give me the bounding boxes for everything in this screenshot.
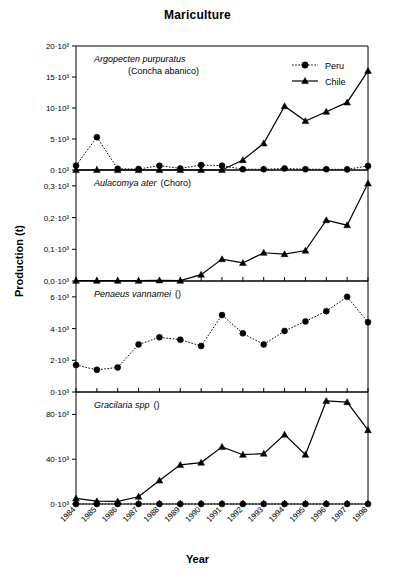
panel-argopecten: 0·10³5·10³10·10³15·10³20·10³Argopecten p…	[46, 42, 372, 175]
data-point-chile	[323, 217, 330, 223]
y-tick-label: 0·10³	[50, 388, 69, 397]
data-point-peru	[73, 362, 79, 368]
data-point-peru	[115, 364, 121, 370]
data-point-peru	[323, 501, 329, 507]
x-tick-label: 1985	[79, 505, 98, 524]
panel-aulacomya: 0,0·10³0,1·10³0,2·10³0,3·10³Aulacomya at…	[44, 170, 372, 286]
data-point-peru	[219, 312, 225, 318]
panel-caption: Gracilaria spp()	[94, 400, 160, 410]
data-point-peru	[156, 501, 162, 507]
y-tick-label: 10·10³	[46, 104, 69, 113]
x-tick-labels: 1984198519861987198819891990199119921993…	[58, 505, 369, 524]
panel-caption: Penaeus vannamei()	[94, 289, 181, 299]
data-point-peru	[261, 166, 267, 172]
panel-caption: Aulacomya ater(Choro)	[93, 178, 191, 188]
x-tick-label: 1993	[246, 505, 265, 524]
data-point-peru	[240, 166, 246, 172]
data-point-peru	[302, 318, 308, 324]
x-tick-label: 1990	[184, 505, 203, 524]
y-tick-label: 15·10³	[46, 73, 69, 82]
data-point-peru	[344, 294, 350, 300]
data-point-chile	[219, 443, 226, 449]
data-point-peru	[136, 501, 142, 507]
data-point-peru	[156, 334, 162, 340]
data-point-peru	[240, 501, 246, 507]
data-point-peru	[282, 501, 288, 507]
data-point-peru	[365, 319, 371, 325]
panel-penaeus: 0·10³2·10³4·10³6·10³Penaeus vannamei()	[50, 281, 371, 397]
x-tick-label: 1987	[121, 505, 140, 524]
y-tick-label: 0,0·10³	[44, 277, 70, 286]
legend-item-peru[interactable]: Peru	[292, 61, 344, 71]
x-tick-label: 1988	[142, 505, 161, 524]
panel-caption-line2: (Concha abanico)	[128, 66, 199, 76]
data-point-peru	[94, 134, 100, 140]
x-tick-label: 1992	[225, 505, 244, 524]
y-tick-label: 40·10³	[46, 455, 69, 464]
data-point-peru	[261, 501, 267, 507]
x-tick-label: 1996	[309, 505, 328, 524]
chart-root: Mariculture Production (t) Year 0·10³5·1…	[0, 0, 395, 588]
y-tick-label: 6·10³	[50, 293, 69, 302]
x-tick-label: 1986	[100, 505, 119, 524]
x-tick-label: 1995	[288, 505, 307, 524]
legend-item-chile[interactable]: Chile	[292, 77, 346, 87]
data-point-peru	[302, 166, 308, 172]
x-tick-label: 1997	[330, 505, 349, 524]
y-tick-label: 0,3·10³	[44, 182, 70, 191]
x-tick-label: 1991	[204, 505, 223, 524]
data-point-chile	[323, 108, 330, 114]
panel-caption: Argopecten purpuratus	[93, 54, 186, 64]
y-tick-label: 0,1·10³	[44, 245, 70, 254]
data-point-peru	[73, 501, 79, 507]
y-tick-label: 5·10³	[50, 135, 69, 144]
y-tick-label: 2·10³	[50, 356, 69, 365]
data-point-peru	[177, 501, 183, 507]
data-point-peru	[344, 166, 350, 172]
data-point-peru	[323, 308, 329, 314]
data-point-peru	[261, 341, 267, 347]
data-point-peru	[365, 163, 371, 169]
x-tick-label: 1998	[350, 505, 369, 524]
data-point-chile	[219, 256, 226, 262]
data-point-peru	[198, 343, 204, 349]
data-point-chile	[281, 103, 288, 109]
data-point-chile	[260, 140, 267, 146]
data-point-peru	[240, 330, 246, 336]
plot-area: 0·10³5·10³10·10³15·10³20·10³Argopecten p…	[0, 0, 395, 588]
data-point-chile	[281, 431, 288, 437]
legend-label: Chile	[325, 77, 346, 87]
data-point-chile	[302, 118, 309, 124]
y-tick-label: 80·10³	[46, 410, 69, 419]
y-tick-label: 20·10³	[46, 42, 69, 51]
data-point-chile	[344, 99, 351, 105]
y-tick-label: 0·10³	[50, 166, 69, 175]
series-line-peru	[76, 297, 368, 370]
legend: PeruChile	[292, 61, 346, 87]
data-point-peru	[198, 501, 204, 507]
y-tick-label: 4·10³	[50, 325, 69, 334]
data-point-peru	[302, 501, 308, 507]
panel-gracilaria: 0·10³40·10³80·10³Gracilaria spp()	[46, 392, 372, 509]
x-tick-label: 1994	[267, 505, 286, 524]
legend-label: Peru	[325, 61, 344, 71]
data-point-peru	[344, 501, 350, 507]
y-tick-label: 0,2·10³	[44, 214, 70, 223]
data-point-peru	[323, 166, 329, 172]
data-point-peru	[365, 501, 371, 507]
data-point-chile	[365, 67, 372, 73]
data-point-peru	[177, 337, 183, 343]
data-point-peru	[282, 328, 288, 334]
legend-marker-circle	[302, 62, 308, 68]
data-point-peru	[282, 165, 288, 171]
data-point-peru	[219, 501, 225, 507]
series-line-chile	[76, 401, 368, 501]
x-tick-label: 1989	[163, 505, 182, 524]
data-point-peru	[136, 341, 142, 347]
y-tick-label: 0·10³	[50, 500, 69, 509]
data-point-peru	[94, 367, 100, 373]
data-point-chile	[73, 495, 80, 501]
series-line-chile	[76, 183, 368, 280]
data-point-chile	[365, 180, 372, 186]
